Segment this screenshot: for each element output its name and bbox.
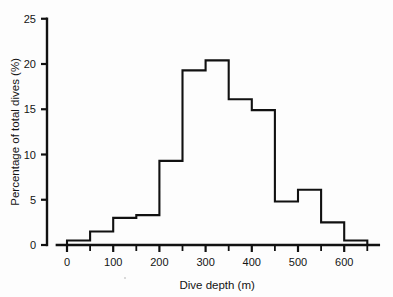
y-tick-label: 5: [30, 194, 36, 206]
x-tick-label: 300: [196, 256, 214, 268]
x-tick-label: 0: [64, 256, 70, 268]
y-axis-tick-labels: 0510152025: [24, 13, 36, 251]
y-tick-label: 25: [24, 13, 36, 25]
x-axis-tick-labels: 0100200300400500600: [64, 256, 353, 268]
y-tick-label: 20: [24, 58, 36, 70]
y-tick-label: 0: [30, 239, 36, 251]
histogram-bars: [67, 60, 367, 245]
dive-depth-histogram: 0510152025 0100200300400500600 Dive dept…: [0, 0, 393, 297]
x-tick-label: 600: [335, 256, 353, 268]
x-tick-label: 500: [289, 256, 307, 268]
x-tick-label: 400: [243, 256, 261, 268]
y-axis-title: Percentage of total dives (%): [9, 58, 21, 206]
y-tick-label: 10: [24, 149, 36, 161]
x-tick-label: 200: [150, 256, 168, 268]
x-axis-title: Dive depth (m): [179, 279, 255, 291]
x-tick-label: 100: [104, 256, 122, 268]
histogram-figure: 0510152025 0100200300400500600 Dive dept…: [0, 0, 393, 297]
page-speck: [124, 277, 126, 279]
y-tick-label: 15: [24, 103, 36, 115]
